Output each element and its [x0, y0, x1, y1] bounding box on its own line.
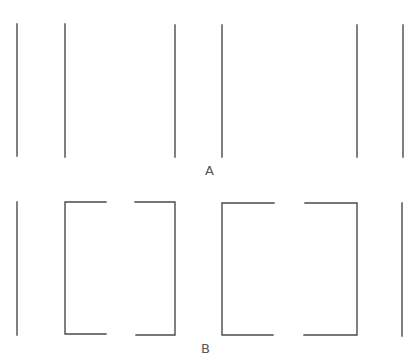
panel-b-shapes	[17, 202, 402, 336]
panel-b-bracket-2-left	[222, 203, 274, 335]
panel-b-bracket-1-right	[135, 202, 175, 335]
panel-b-bracket-1-left	[65, 202, 106, 334]
panel-a-lines	[17, 24, 403, 157]
diagram-canvas	[0, 0, 418, 364]
panel-b-label: B	[201, 342, 210, 355]
panel-b-bracket-2-right	[304, 203, 357, 335]
panel-a-label: A	[205, 164, 214, 177]
